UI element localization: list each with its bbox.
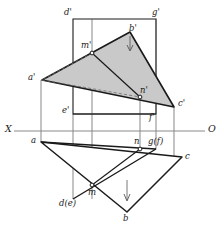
label-g-prime: g' [152, 8, 160, 17]
drawing-canvas [0, 0, 220, 234]
label-e-prime: e' [62, 106, 69, 115]
label-m: m [88, 188, 96, 197]
label-n: n [134, 137, 139, 146]
label-b-prime: b' [129, 24, 137, 33]
point-n-marker [138, 147, 142, 151]
label-a-prime: a' [28, 73, 35, 82]
label-c-prime: c' [178, 99, 185, 108]
label-a: a [31, 136, 36, 145]
label-c: c [185, 152, 190, 161]
descriptive-geometry-figure: d' g' b' m' a' n' c' e' f' a n g(f) c m … [0, 0, 220, 234]
point-n-prime-marker [138, 95, 142, 99]
label-b: b [123, 214, 128, 223]
label-g-f: g(f) [148, 137, 163, 146]
label-axis-o: O [208, 124, 216, 134]
label-d-e: d(e) [59, 199, 76, 208]
label-axis-x: X [5, 124, 12, 134]
label-n-prime: n' [140, 86, 148, 95]
label-d-prime: d' [64, 8, 72, 17]
label-m-prime: m' [81, 41, 91, 50]
point-m-prime-marker [90, 51, 94, 55]
label-f-prime: f' [149, 113, 154, 122]
